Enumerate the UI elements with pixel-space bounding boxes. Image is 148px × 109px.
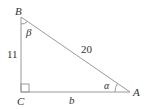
side-ba	[21, 17, 130, 92]
angle-arc-alpha	[115, 84, 118, 93]
right-angle-marker	[21, 84, 29, 92]
vertex-label-c: C	[17, 95, 25, 107]
triangle-sides	[21, 17, 130, 92]
angle-arc-beta	[21, 22, 28, 25]
angle-label-alpha: α	[104, 80, 110, 91]
vertex-label-a: A	[132, 86, 140, 98]
side-label-ca: b	[69, 94, 75, 106]
vertex-label-b: B	[15, 5, 22, 17]
angle-label-beta: β	[25, 26, 32, 38]
right-triangle-diagram: B C A 11 20 b β α	[0, 0, 148, 109]
side-label-ba: 20	[81, 43, 93, 55]
side-label-bc: 11	[7, 48, 18, 60]
